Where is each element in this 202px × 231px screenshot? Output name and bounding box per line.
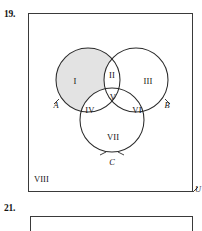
exercise-number-19: 19. <box>4 10 15 20</box>
region-label-III: III <box>144 77 153 86</box>
circle-set-b <box>104 48 168 112</box>
region-label-I: I <box>74 77 77 86</box>
textbook-figure-page: 19. I II III IV V VI <box>0 0 202 231</box>
exercise-number-21: 21. <box>4 204 15 214</box>
region-label-VIII: VIII <box>34 175 49 184</box>
region-label-V: V <box>110 93 116 102</box>
region-label-VI: VI <box>132 106 141 115</box>
universal-set-label: U <box>195 186 201 194</box>
set-label-b: B <box>164 102 169 110</box>
leader-tick-c <box>100 152 106 155</box>
set-label-a: A <box>53 102 58 110</box>
region-label-VII: VII <box>107 133 119 142</box>
universal-set-rectangle-next <box>30 216 193 231</box>
set-label-c: C <box>109 159 115 167</box>
region-label-II: II <box>109 71 115 80</box>
region-label-IV: IV <box>85 106 94 115</box>
leader-tick-c2 <box>118 152 124 155</box>
